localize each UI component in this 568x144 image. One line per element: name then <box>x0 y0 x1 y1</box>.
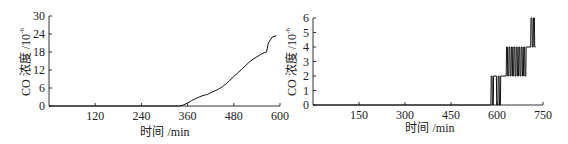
chart-right: CO 浓度 /10-6 0123456150300450600750 时间 /m… <box>278 0 568 144</box>
y-tick-label: 2 <box>303 69 309 83</box>
data-line <box>49 36 276 106</box>
x-axis-label: 时间 /min <box>405 121 454 135</box>
y-tick-label: 6 <box>39 81 45 95</box>
x-tick-label: 150 <box>350 108 368 122</box>
svg-text:CO 浓度 /10-6: CO 浓度 /10-6 <box>18 28 33 96</box>
y-tick-label: 12 <box>33 63 45 77</box>
x-tick-label: 450 <box>442 108 460 122</box>
svg-text:CO 浓度 /10-6: CO 浓度 /10-6 <box>284 28 299 96</box>
x-tick-label: 600 <box>488 108 506 122</box>
data-line <box>313 18 536 105</box>
y-tick-label: 30 <box>33 9 45 23</box>
x-tick-label: 480 <box>225 109 243 123</box>
y-tick-label: 6 <box>303 11 309 25</box>
y-tick-label: 5 <box>303 26 309 40</box>
y-tick-label: 4 <box>303 40 309 54</box>
x-tick-label: 300 <box>396 108 414 122</box>
chart-left: CO 浓度 /10-6 0612182430120240360480600 时间… <box>0 0 290 144</box>
y-axis-label: CO 浓度 /10-6 <box>18 28 33 96</box>
y-tick-label: 18 <box>33 45 45 59</box>
y-tick-label: 1 <box>303 84 309 98</box>
y-tick-label: 0 <box>303 98 309 112</box>
x-tick-label: 360 <box>179 109 197 123</box>
y-axis-label: CO 浓度 /10-6 <box>284 28 299 96</box>
x-tick-label: 120 <box>86 109 104 123</box>
x-axis-label: 时间 /min <box>140 125 189 139</box>
y-tick-label: 3 <box>303 55 309 69</box>
y-tick-label: 0 <box>39 99 45 113</box>
x-tick-label: 240 <box>132 109 150 123</box>
x-tick-label: 750 <box>534 108 552 122</box>
y-tick-label: 24 <box>33 27 45 41</box>
